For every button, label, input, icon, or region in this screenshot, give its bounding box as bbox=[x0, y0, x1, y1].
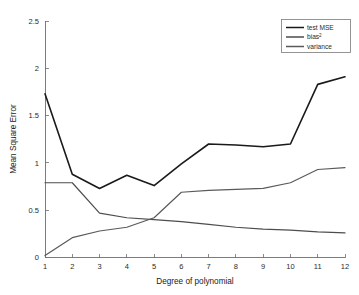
y-axis-tick-labels: 00.511.522.5 bbox=[29, 17, 39, 262]
chart-figure: 00.511.522.5 123456789101112 Degree of p… bbox=[0, 0, 359, 295]
x-tick-label: 1 bbox=[43, 262, 47, 271]
x-tick-label: 12 bbox=[341, 262, 349, 271]
x-tick-label: 5 bbox=[152, 262, 156, 271]
x-tick-label: 7 bbox=[207, 262, 211, 271]
line-chart: 00.511.522.5 123456789101112 Degree of p… bbox=[0, 0, 359, 295]
x-tick-label: 4 bbox=[125, 262, 129, 271]
x-tick-label: 8 bbox=[234, 262, 238, 271]
series-line-test MSE bbox=[45, 77, 345, 189]
y-axis-title: Mean Square Error bbox=[9, 104, 18, 174]
y-tick-label: 2.5 bbox=[29, 17, 39, 26]
y-tick-label: 0.5 bbox=[29, 206, 39, 215]
x-tick-label: 11 bbox=[314, 262, 322, 271]
x-axis-tick-labels: 123456789101112 bbox=[43, 262, 349, 271]
series-line-variance bbox=[45, 168, 345, 256]
y-tick-label: 1.5 bbox=[29, 111, 39, 120]
y-tick-label: 0 bbox=[35, 253, 39, 262]
x-tick-label: 6 bbox=[179, 262, 183, 271]
x-tick-label: 9 bbox=[261, 262, 265, 271]
y-tick-label: 2 bbox=[35, 64, 39, 73]
legend-label-test MSE: test MSE bbox=[307, 24, 334, 31]
chart-legend: test MSEbias2variance bbox=[282, 20, 351, 53]
x-tick-label: 3 bbox=[97, 262, 101, 271]
legend-superscript: 2 bbox=[319, 33, 322, 38]
y-tick-label: 1 bbox=[35, 159, 39, 168]
data-series-layer bbox=[45, 77, 345, 256]
legend-label-variance: variance bbox=[307, 43, 332, 50]
x-tick-label: 2 bbox=[70, 262, 74, 271]
x-tick-label: 10 bbox=[286, 262, 294, 271]
series-line-bias2 bbox=[45, 183, 345, 233]
x-axis-ticks bbox=[45, 254, 345, 258]
x-axis-title: Degree of polynomial bbox=[156, 277, 234, 286]
